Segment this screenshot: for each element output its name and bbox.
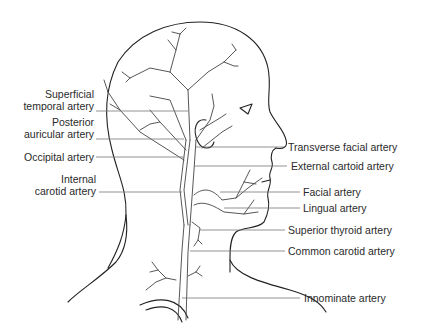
label-line: auricular artery (0, 128, 94, 140)
label-posterior-auricular-artery: Posterior auricular artery (0, 116, 94, 140)
label-lingual-artery: Lingual artery (303, 202, 367, 214)
leader-lines (96, 111, 300, 298)
label-occipital-artery: Occipital artery (0, 151, 94, 163)
head-outline (68, 22, 326, 322)
label-line: Posterior (0, 116, 94, 128)
label-common-carotid-artery: Common carotid artery (288, 245, 395, 257)
label-facial-artery: Facial artery (303, 186, 361, 198)
label-superior-thyroid-artery: Superior thyroid artery (288, 224, 392, 236)
label-line: carotid artery (0, 185, 96, 197)
label-superficial-temporal-artery: Superficial temporal artery (0, 88, 94, 112)
label-line: Internal (0, 173, 96, 185)
label-transverse-facial-artery: Transverse facial artery (288, 141, 397, 153)
label-line: Occipital artery (0, 151, 94, 163)
label-line: Superficial (0, 88, 94, 100)
artery-tree (104, 28, 262, 320)
label-external-carotid-artery: External cartoid artery (291, 160, 394, 172)
label-internal-carotid-artery: Internal carotid artery (0, 173, 96, 197)
label-line: temporal artery (0, 100, 94, 112)
label-innominate-artery: Innominate artery (304, 292, 386, 304)
